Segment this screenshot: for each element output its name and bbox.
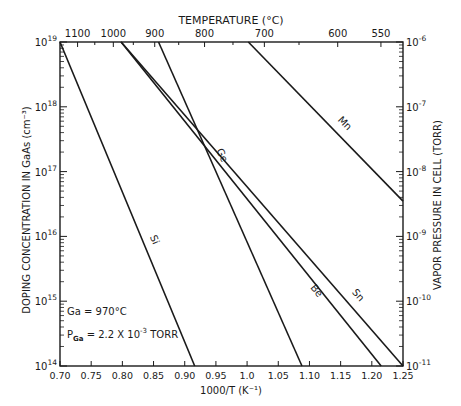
- y-axis-ticks: 101410151016101710181019: [35, 34, 67, 372]
- x-tick-label: 1.10: [299, 370, 320, 381]
- x-tick-label: 1.20: [361, 370, 382, 381]
- x-tick-label: 0.80: [112, 370, 133, 381]
- plot-area-border: [60, 42, 403, 366]
- y-tick-label: 1019: [35, 34, 58, 48]
- top-tick-label: 550: [371, 28, 390, 39]
- top-axis-title: TEMPERATURE (°C): [177, 14, 283, 27]
- x-tick-label: 1.05: [268, 370, 289, 381]
- series-label-si: Si: [148, 233, 162, 246]
- top-axis-ticks: 11001000900800700600550: [65, 28, 391, 47]
- y-tick-label: 10-9: [406, 228, 426, 242]
- series-label-be: Be: [308, 282, 325, 299]
- y2-axis-ticks: 10-1110-1010-910-810-710-6: [396, 34, 431, 372]
- series-line-be: [121, 42, 381, 366]
- doping-vs-temperature-chart: 0.700.750.800.850.900.951.01.051.101.151…: [0, 0, 461, 406]
- plot-frame: [60, 42, 403, 366]
- series-label-mn: Mn: [336, 114, 354, 132]
- x-tick-label: 1.0: [240, 370, 255, 381]
- top-tick-label: 900: [145, 28, 164, 39]
- top-tick-label: 600: [328, 28, 347, 39]
- y-tick-label: 10-10: [406, 293, 431, 307]
- y-axis-title: DOPING CONCENTRATION IN GaAs (cm⁻³): [21, 106, 32, 314]
- x-tick-label: 0.70: [49, 370, 70, 381]
- x-tick-label: 0.95: [205, 370, 226, 381]
- x-tick-label: 0.90: [174, 370, 195, 381]
- series-line-sn: [121, 42, 403, 366]
- y2-axis-title: VAPOR PRESSURE IN CELL (TORR): [432, 120, 443, 290]
- top-tick-label: 1100: [65, 28, 90, 39]
- x-axis-ticks: 0.700.750.800.850.900.951.01.051.101.151…: [49, 361, 413, 381]
- y-tick-label: 10-7: [406, 99, 426, 113]
- top-tick-label: 1000: [101, 28, 126, 39]
- series-line-ge: [159, 42, 302, 366]
- annotation-ga-pressure: PGa = 2.2 X 10-3 TORR: [67, 327, 178, 343]
- top-tick-label: 800: [195, 28, 214, 39]
- annotation-ga-temperature: Ga = 970°C: [67, 306, 127, 317]
- y-tick-label: 10-6: [406, 34, 426, 48]
- y-tick-label: 1016: [35, 228, 58, 242]
- y-tick-label: 1018: [35, 99, 58, 113]
- y-tick-label: 1017: [35, 164, 58, 178]
- x-tick-label: 1.15: [330, 370, 351, 381]
- top-tick-label: 700: [255, 28, 274, 39]
- series-line-mn: [248, 42, 403, 201]
- y-tick-label: 10-11: [406, 358, 431, 372]
- data-series: SiGeBeSnMn: [60, 42, 403, 366]
- series-line-si: [60, 42, 195, 366]
- x-axis-title: 1000/T (K⁻¹): [200, 385, 262, 396]
- x-tick-label: 0.85: [143, 370, 164, 381]
- y-tick-label: 10-8: [406, 164, 426, 178]
- series-label-sn: Sn: [350, 287, 367, 304]
- x-tick-label: 0.75: [81, 370, 102, 381]
- y-tick-label: 1015: [35, 293, 58, 307]
